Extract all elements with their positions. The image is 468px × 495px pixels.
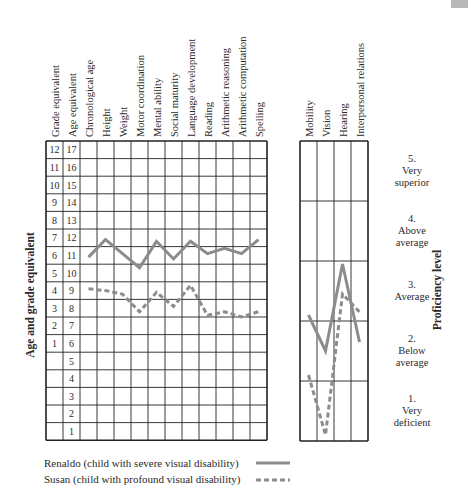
grade-tick: 12 xyxy=(50,144,60,155)
proficiency-level-text: 4. xyxy=(408,213,416,224)
age-tick: 17 xyxy=(67,144,77,155)
proficiency-column-headers: MobilityVisionHearingInterpersonal relat… xyxy=(304,43,366,137)
age-tick: 11 xyxy=(67,250,77,261)
left-axis-title: Age and grade equivalent xyxy=(24,232,37,358)
grade-tick: 7 xyxy=(52,232,57,243)
column-header-chronological-age: Chronological age xyxy=(84,59,95,137)
age-tick: 1 xyxy=(69,426,74,437)
proficiency-level-3: 3.Average xyxy=(395,279,430,302)
proficiency-level-text: deficient xyxy=(394,417,431,428)
column-header-vision: Vision xyxy=(321,109,332,137)
column-header-mobility: Mobility xyxy=(304,99,315,137)
grade-tick: 9 xyxy=(52,197,57,208)
proficiency-level-text: 3. xyxy=(408,279,416,290)
proficiency-level-text: 2. xyxy=(408,333,416,344)
column-header-reading: Reading xyxy=(203,101,214,137)
age-tick: 14 xyxy=(67,197,77,208)
grade-tick: 3 xyxy=(52,303,57,314)
age-tick: 10 xyxy=(67,268,77,279)
grade-tick: 11 xyxy=(50,162,60,173)
column-header-age-equivalent: Age equivalent xyxy=(67,73,78,137)
legend-label-renaldo: Renaldo (child with severe visual disabi… xyxy=(44,457,239,470)
age-tick: 6 xyxy=(69,338,74,349)
legend: Renaldo (child with severe visual disabi… xyxy=(44,457,290,486)
grade-tick: 4 xyxy=(52,285,57,296)
grade-tick: 6 xyxy=(52,250,57,261)
age-tick: 9 xyxy=(69,285,74,296)
column-header-language-development: Language development xyxy=(186,39,197,137)
proficiency-level-1: 1.Verydeficient xyxy=(394,393,431,428)
proficiency-level-text: Very xyxy=(402,165,423,176)
column-header-weight: Weight xyxy=(118,107,129,137)
column-header-motor-coordination: Motor coordination xyxy=(135,54,146,137)
age-tick: 3 xyxy=(69,391,74,402)
grade-tick: 2 xyxy=(52,320,57,331)
proficiency-level-labels: 5.Verysuperior4.Aboveaverage3.Average2.B… xyxy=(394,153,431,428)
column-header-arithmetic-computation: Arithmetic computation xyxy=(237,36,248,137)
column-header-grade-equivalent: Grade equivalent xyxy=(50,65,61,137)
proficiency-level-text: Above xyxy=(398,225,426,236)
age-tick: 8 xyxy=(69,303,74,314)
column-header-height: Height xyxy=(101,108,112,137)
legend-label-susan: Susan (child with profound visual disabi… xyxy=(44,473,241,486)
profile-chart: Grade equivalentAge equivalentChronologi… xyxy=(0,0,468,495)
proficiency-level-2: 2.Belowaverage xyxy=(396,333,429,368)
column-header-mental-ability: Mental ability xyxy=(152,77,163,137)
grade-tick: 10 xyxy=(50,180,60,191)
column-header-social-maturity: Social maturity xyxy=(169,72,180,137)
age-tick: 13 xyxy=(67,215,77,226)
age-tick: 7 xyxy=(69,320,74,331)
proficiency-level-5: 5.Verysuperior xyxy=(395,153,430,188)
proficiency-level-text: average xyxy=(396,237,429,248)
proficiency-level-text: Average xyxy=(395,291,430,302)
grade-tick: 1 xyxy=(52,338,57,349)
column-header-arithmetic-reasoning: Arithmetic reasoning xyxy=(220,47,231,137)
proficiency-grid xyxy=(300,141,368,441)
age-tick: 16 xyxy=(67,162,77,173)
column-header-interpersonal-relations: Interpersonal relations xyxy=(355,43,366,137)
age-tick: 12 xyxy=(67,232,77,243)
age-tick: 2 xyxy=(69,408,74,419)
proficiency-level-text: Below xyxy=(398,345,426,356)
column-header-spelling: Spelling xyxy=(254,101,265,137)
proficiency-level-text: 5. xyxy=(408,153,416,164)
main-column-headers: Grade equivalentAge equivalentChronologi… xyxy=(50,36,265,137)
age-tick: 4 xyxy=(69,373,74,384)
age-tick: 15 xyxy=(67,180,77,191)
proficiency-level-text: superior xyxy=(395,177,430,188)
proficiency-level-4: 4.Aboveaverage xyxy=(396,213,429,248)
proficiency-level-text: 1. xyxy=(408,393,416,404)
grade-tick: 5 xyxy=(52,268,57,279)
proficiency-level-text: average xyxy=(396,357,429,368)
proficiency-level-text: Very xyxy=(402,405,423,416)
age-tick: 5 xyxy=(69,356,74,367)
column-header-hearing: Hearing xyxy=(338,102,349,137)
right-axis-title: Proficiency level xyxy=(431,250,444,331)
grade-tick: 8 xyxy=(52,215,57,226)
